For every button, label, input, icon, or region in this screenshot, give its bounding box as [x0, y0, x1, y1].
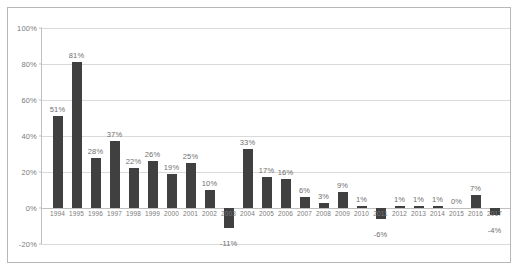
bar[interactable] [300, 197, 310, 208]
bar-group[interactable]: 51%1994 [48, 28, 67, 244]
bar-group[interactable]: 1%2010 [352, 28, 371, 244]
bar-value-label: -11% [220, 239, 237, 248]
bar-group[interactable]: 1%2013 [409, 28, 428, 244]
bar[interactable] [53, 116, 63, 208]
x-axis-category-label: 2013 [411, 210, 426, 217]
bar-group[interactable]: 25%2001 [181, 28, 200, 244]
bar[interactable] [471, 195, 481, 208]
y-axis-tick-label: 20% [21, 168, 37, 177]
bar-value-label: 1% [413, 195, 424, 204]
bar[interactable] [319, 203, 329, 208]
x-axis-category-label: 2005 [259, 210, 274, 217]
bar-value-label: -4% [488, 226, 502, 235]
bar-value-label: 26% [145, 150, 160, 159]
bar-value-label: 10% [202, 179, 217, 188]
bar[interactable] [262, 177, 272, 208]
x-axis-category-label: 2008 [316, 210, 331, 217]
bar[interactable] [395, 206, 405, 208]
bar-value-label: 17% [259, 166, 274, 175]
bar[interactable] [433, 206, 443, 208]
x-axis-category-label: 2010 [354, 210, 369, 217]
bar-group[interactable]: 37%1997 [105, 28, 124, 244]
y-axis-tick-label: 0% [26, 204, 37, 213]
bar-group[interactable]: 17%2005 [257, 28, 276, 244]
bar-value-label: 6% [299, 186, 310, 195]
bar-group[interactable]: 1%2014 [428, 28, 447, 244]
x-axis-category-label: 1998 [126, 210, 141, 217]
bar[interactable] [414, 206, 424, 208]
bar[interactable] [338, 192, 348, 208]
gridline-neg20 [42, 244, 510, 245]
bar[interactable] [129, 168, 139, 208]
x-axis-category-label: 2006 [278, 210, 293, 217]
bar[interactable] [205, 190, 215, 208]
bar-value-label: 3% [318, 192, 329, 201]
bar[interactable] [72, 62, 82, 208]
bar-group[interactable]: 0%2015 [447, 28, 466, 244]
bar[interactable] [167, 174, 177, 208]
x-axis-category-label: 2011 [373, 210, 387, 217]
y-axis-tick-label: 40% [21, 132, 37, 141]
bar-group[interactable]: 10%2002 [200, 28, 219, 244]
bar[interactable] [243, 149, 253, 208]
bar-value-label: 1% [356, 195, 367, 204]
bar-value-label: 37% [107, 130, 122, 139]
bar-group[interactable]: -11%2003 [219, 28, 238, 244]
bar[interactable] [357, 206, 367, 208]
bar-value-label: 25% [183, 152, 198, 161]
bar[interactable] [186, 163, 196, 208]
bar-value-label: 1% [394, 195, 405, 204]
bar-group[interactable]: 26%1999 [143, 28, 162, 244]
bar-value-label: 1% [432, 195, 443, 204]
bar-value-label: 19% [164, 163, 179, 172]
bar-group[interactable]: 28%1996 [86, 28, 105, 244]
bar-group[interactable]: -6%2011 [371, 28, 390, 244]
x-axis-category-label: 1999 [145, 210, 160, 217]
x-axis-category-label: 1997 [107, 210, 122, 217]
bar-group[interactable]: 19%2000 [162, 28, 181, 244]
bar-group[interactable]: 22%1998 [124, 28, 143, 244]
bar-value-label: 51% [50, 105, 65, 114]
bar-group[interactable]: 3%2008 [314, 28, 333, 244]
x-axis-category-label: 1994 [50, 210, 65, 217]
bar-value-label: 9% [337, 181, 348, 190]
bar-value-label: 7% [470, 184, 481, 193]
bar-value-label: 0% [451, 197, 462, 206]
bar-group[interactable]: 7%2016 [466, 28, 485, 244]
bar-value-label: 33% [240, 138, 255, 147]
y-axis-tick-label: -20% [19, 240, 37, 249]
plot-area: 100%80%60%40%20%0%-20% 51%199481%199528%… [42, 28, 510, 244]
bar-value-label: 28% [88, 147, 103, 156]
x-axis-category-label: 2015 [449, 210, 464, 217]
bar-value-label: 16% [278, 168, 293, 177]
bar-value-label: 81% [69, 51, 84, 60]
bar[interactable] [110, 141, 120, 208]
x-axis-category-label: 2007 [297, 210, 312, 217]
x-axis-category-label: 2016 [468, 210, 483, 217]
bar[interactable] [148, 161, 158, 208]
x-axis-category-label: 2001 [183, 210, 198, 217]
x-axis-category-label: 2002 [202, 210, 217, 217]
bar[interactable] [281, 179, 291, 208]
bar-group[interactable]: 6%2007 [295, 28, 314, 244]
bar-series: 51%199481%199528%199637%199722%199826%19… [42, 28, 510, 244]
bar-value-label: -6% [374, 230, 388, 239]
bar-value-label: 22% [126, 157, 141, 166]
x-axis-category-label: 2004 [240, 210, 255, 217]
bar-group[interactable]: -4%2017 [485, 28, 504, 244]
x-axis-category-label: 1995 [69, 210, 84, 217]
bar-group[interactable]: 16%2006 [276, 28, 295, 244]
x-axis-category-label: 2009 [335, 210, 350, 217]
y-axis-tick-label: 80% [21, 60, 37, 69]
y-axis-tick-label: 60% [21, 96, 37, 105]
bar-group[interactable]: 1%2012 [390, 28, 409, 244]
x-axis-category-label: 2003 [221, 210, 236, 217]
bar-group[interactable]: 9%2009 [333, 28, 352, 244]
x-axis-category-label: 1996 [88, 210, 103, 217]
chart-frame: 100%80%60%40%20%0%-20% 51%199481%199528%… [7, 7, 511, 263]
bar-group[interactable]: 81%1995 [67, 28, 86, 244]
y-axis-tick-label: 100% [17, 24, 37, 33]
bar-group[interactable]: 33%2004 [238, 28, 257, 244]
bar[interactable] [91, 158, 101, 208]
x-axis-category-label: 2012 [392, 210, 407, 217]
